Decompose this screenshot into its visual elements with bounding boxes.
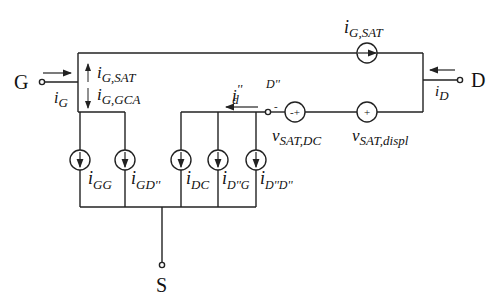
internal-drain-wire — [181, 112, 265, 150]
i-d-label: iD — [435, 83, 449, 103]
internal-node-d2-icon — [265, 109, 270, 114]
source-terminal-node-icon — [159, 262, 164, 267]
i-g-gca-label: iG,GCA — [97, 85, 140, 107]
minus-mark: - — [274, 100, 278, 112]
v-sat-dc-label: vSAT,DC — [272, 126, 321, 148]
drain-terminal-node-icon — [457, 77, 462, 82]
gate-label: G — [14, 71, 28, 93]
i-g-sat-top-label: iG,SAT — [344, 17, 384, 40]
i-d2d2-label: iD''D'' — [260, 168, 293, 192]
i-g-label: iG — [54, 89, 68, 110]
v-sat-dc-source: -+ — [285, 102, 305, 122]
v-sat-displ-label: vSAT,displ — [352, 126, 409, 148]
circuit-diagram: G iG iG,SAT iG,GCA i''d D'' - -+ vSAT,DC… — [0, 0, 501, 304]
current-source-igg — [70, 150, 90, 207]
gate-inner-wire — [78, 112, 125, 150]
i-d2-label: i''d — [232, 81, 243, 107]
i-d2g-label: iD''G — [222, 168, 250, 192]
internal-node-label: D'' — [265, 77, 280, 91]
gate-terminal-node-icon — [39, 79, 44, 84]
i-g-sat-source — [357, 43, 377, 63]
gate-terminal — [39, 73, 78, 85]
source-label: S — [156, 274, 167, 296]
svg-text:-+: -+ — [290, 106, 300, 118]
i-gg-label: iGG — [88, 168, 112, 192]
v-sat-displ-source: + — [357, 102, 377, 122]
i-dc-label: iDC — [186, 168, 209, 192]
drain-label: D — [471, 69, 485, 91]
i-g-sat-branch-label: iG,SAT — [97, 63, 136, 85]
svg-text:+: + — [364, 106, 370, 118]
i-gd2-label: iGD'' — [131, 168, 161, 192]
